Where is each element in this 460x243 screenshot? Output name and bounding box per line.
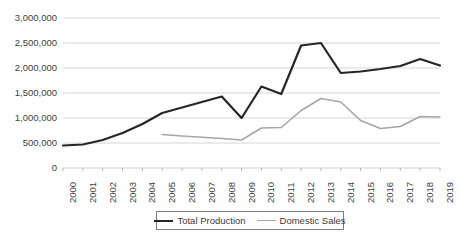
series-lines — [63, 43, 440, 146]
legend-swatch-icon — [257, 220, 276, 221]
x-axis-tick-label: 2015 — [355, 173, 367, 213]
x-axis-tick-label: 2008 — [216, 173, 228, 213]
line-chart: 3,000,0002,500,0002,000,0001,500,0001,00… — [0, 0, 460, 243]
x-axis-tick-label: 2009 — [236, 173, 248, 213]
x-axis-tick-label: 2018 — [414, 173, 426, 213]
x-axis-tick-label: 2010 — [255, 173, 267, 213]
x-axis-tick-label: 2012 — [295, 173, 307, 213]
x-axis-tick-label: 2003 — [117, 173, 129, 213]
legend-label: Domestic Sales — [280, 215, 346, 226]
x-axis-tick-label: 2007 — [196, 173, 208, 213]
x-axis-tick-label: 2002 — [97, 173, 109, 213]
x-axis-tick-text: 2019 — [444, 182, 456, 203]
x-axis-tick-label: 2000 — [57, 173, 69, 213]
series-line-total-production — [63, 43, 440, 146]
x-axis-tick-label: 2016 — [374, 173, 386, 213]
gridlines — [63, 18, 440, 168]
x-axis-tick-label: 2014 — [335, 173, 347, 213]
x-axis-tick-label: 2001 — [77, 173, 89, 213]
plot-area — [0, 0, 460, 243]
x-axis-tick-label: 2019 — [434, 173, 446, 213]
x-axis-tick-label: 2006 — [176, 173, 188, 213]
legend-item-total-production: Total Production — [154, 215, 245, 226]
chart-legend: Total Production Domestic Sales — [156, 211, 344, 230]
x-axis-tick-label: 2005 — [156, 173, 168, 213]
legend-label: Total Production — [177, 215, 245, 226]
legend-swatch-icon — [154, 220, 173, 222]
legend-item-domestic-sales: Domestic Sales — [257, 215, 346, 226]
x-axis-tick-label: 2013 — [315, 173, 327, 213]
x-axis-tick-label: 2017 — [394, 173, 406, 213]
series-line-domestic-sales — [162, 99, 440, 141]
x-axis-tick-label: 2004 — [136, 173, 148, 213]
x-axis-tick-label: 2011 — [275, 173, 287, 213]
